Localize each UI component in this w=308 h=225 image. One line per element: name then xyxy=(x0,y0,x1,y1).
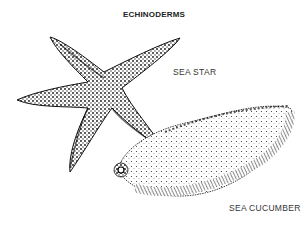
sea-cucumber-label: SEA CUCUMBER xyxy=(229,203,301,213)
sea-star-label: SEA STAR xyxy=(173,67,216,77)
echinoderm-illustration xyxy=(0,0,308,225)
